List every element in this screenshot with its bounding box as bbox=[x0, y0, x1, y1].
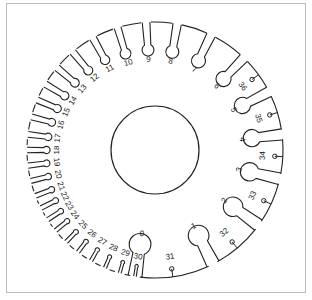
slot-label: 24 bbox=[69, 209, 82, 222]
hole-label: 34 bbox=[258, 150, 267, 160]
slot-18 bbox=[27, 146, 50, 153]
outer-edge bbox=[43, 212, 45, 215]
outer-edge bbox=[33, 105, 36, 113]
outer-edge bbox=[97, 29, 113, 36]
slot-label: 20 bbox=[53, 169, 64, 180]
slot-label: 11 bbox=[104, 62, 116, 74]
slot-19 bbox=[28, 160, 50, 168]
outer-edge bbox=[261, 184, 278, 222]
outer-edge bbox=[29, 170, 30, 176]
outer-edge bbox=[39, 88, 43, 95]
slot-24 bbox=[54, 219, 69, 233]
outer-edge bbox=[60, 55, 69, 64]
slot-8 bbox=[166, 23, 182, 58]
outer-edge bbox=[110, 270, 115, 272]
center-hole bbox=[111, 106, 199, 194]
slot-10 bbox=[114, 27, 131, 59]
slot-label: 3 bbox=[234, 166, 244, 173]
slot-15 bbox=[36, 97, 61, 112]
slot-label: 26 bbox=[86, 227, 99, 240]
slot-23 bbox=[46, 208, 63, 221]
slot-label: 2 bbox=[219, 196, 229, 205]
slot-26 bbox=[77, 239, 89, 253]
outer-edge bbox=[95, 263, 100, 266]
outer-edge bbox=[82, 255, 87, 258]
outer-edge bbox=[122, 23, 141, 26]
outer-edge bbox=[247, 61, 266, 87]
hole-33 bbox=[262, 199, 266, 203]
hole-label: 32 bbox=[218, 226, 231, 239]
slot-2 bbox=[223, 197, 262, 230]
slot-label: 15 bbox=[60, 106, 72, 118]
outer-edge bbox=[29, 122, 31, 130]
outer-edge bbox=[77, 41, 89, 49]
slot-label: 4 bbox=[237, 137, 247, 143]
slot-16 bbox=[31, 114, 56, 126]
outer-edge bbox=[215, 37, 240, 54]
slot-label: 25 bbox=[77, 218, 90, 231]
slot-label: 30 bbox=[133, 251, 144, 261]
hole-label: 31 bbox=[165, 251, 176, 261]
slot-30 bbox=[134, 265, 139, 277]
hole-slit bbox=[232, 242, 237, 248]
slot-label: 9 bbox=[146, 55, 152, 64]
slot-label: 12 bbox=[88, 71, 101, 84]
slot-7 bbox=[191, 33, 215, 68]
outer-edge bbox=[37, 200, 38, 203]
slot-label: 18 bbox=[52, 145, 61, 154]
slot-label: 5 bbox=[229, 106, 239, 115]
slot-21 bbox=[35, 187, 55, 199]
slot-22 bbox=[40, 198, 59, 210]
slot-label: 8 bbox=[168, 56, 174, 66]
outer-edge bbox=[124, 274, 130, 275]
slot-label: 27 bbox=[96, 235, 109, 248]
outer-edge bbox=[50, 224, 52, 227]
slot-label: 19 bbox=[52, 157, 62, 167]
hole-label: 33 bbox=[247, 189, 259, 201]
outer-edge bbox=[140, 266, 209, 278]
slot-9 bbox=[142, 22, 154, 56]
slot-label: 0 bbox=[139, 229, 145, 239]
hole-slit bbox=[172, 269, 173, 277]
slot-label: 28 bbox=[108, 242, 120, 254]
slot-13 bbox=[55, 65, 79, 87]
outer-edge bbox=[151, 22, 172, 23]
slot-12 bbox=[70, 50, 93, 75]
slot-5 bbox=[234, 87, 271, 113]
slot-20 bbox=[30, 173, 51, 183]
hole-label: 35 bbox=[253, 113, 264, 125]
slot-1 bbox=[188, 225, 219, 267]
hole-label: 36 bbox=[236, 80, 249, 93]
slot-25 bbox=[65, 229, 79, 243]
outer-edge bbox=[70, 245, 74, 249]
outer-edge bbox=[182, 25, 207, 33]
slot-label: 13 bbox=[76, 82, 89, 95]
slot-label: 10 bbox=[123, 57, 135, 68]
slot-label: 29 bbox=[120, 247, 132, 258]
slot-29 bbox=[118, 261, 124, 274]
outer-edge bbox=[48, 72, 54, 80]
slot-14 bbox=[44, 81, 69, 100]
slot-17 bbox=[28, 132, 52, 141]
slot-label: 16 bbox=[55, 119, 66, 130]
wire-gauge-diagram: 0123456789101112131415161718192021222324… bbox=[0, 0, 312, 300]
slot-label: 17 bbox=[53, 133, 63, 143]
slot-28 bbox=[104, 255, 112, 269]
slot-label: 7 bbox=[190, 64, 198, 74]
slot-27 bbox=[90, 248, 100, 262]
slot-11 bbox=[90, 36, 110, 64]
slot-4 bbox=[243, 129, 282, 147]
outer-edge bbox=[59, 234, 63, 238]
slot-3 bbox=[240, 163, 281, 185]
outer-edge bbox=[32, 186, 34, 192]
